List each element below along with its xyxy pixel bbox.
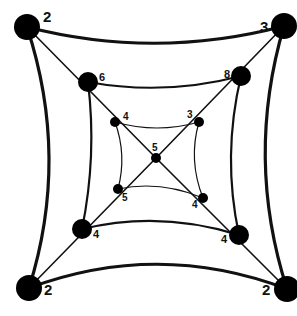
graph-diagram: 2322684443545 <box>0 0 297 316</box>
node-outer-tl <box>14 14 40 40</box>
node-center <box>151 153 161 163</box>
node-label-middle-bl: 4 <box>93 228 100 240</box>
node-label-outer-tl: 2 <box>43 8 51 25</box>
node-inner-tl <box>110 117 120 127</box>
node-label-inner-tr: 3 <box>187 109 193 120</box>
node-label-middle-tr: 8 <box>224 68 230 80</box>
node-outer-bl <box>16 275 42 301</box>
node-middle-br <box>229 225 249 245</box>
node-inner-tr <box>194 117 204 127</box>
node-label-center: 5 <box>152 142 158 153</box>
node-label-outer-bl: 2 <box>44 281 52 298</box>
node-label-inner-br: 4 <box>192 199 198 210</box>
node-label-middle-br: 4 <box>221 233 228 245</box>
node-label-outer-br: 2 <box>262 281 270 298</box>
node-middle-tl <box>78 72 98 92</box>
node-label-inner-tl: 4 <box>123 111 129 122</box>
node-inner-br <box>198 193 208 203</box>
background <box>0 0 297 316</box>
node-outer-tr <box>271 13 297 39</box>
node-label-outer-tr: 3 <box>260 18 268 35</box>
node-label-middle-tl: 6 <box>99 71 105 83</box>
node-middle-bl <box>72 219 92 239</box>
node-label-inner-bl: 5 <box>122 192 128 203</box>
node-middle-tr <box>231 66 251 86</box>
